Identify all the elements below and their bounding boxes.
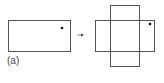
left-rectangle bbox=[9, 21, 71, 52]
diagram-canvas bbox=[0, 0, 164, 83]
arrow-icon bbox=[77, 34, 84, 37]
figure-label: (a) bbox=[7, 55, 19, 66]
cross-horizontal-rectangle bbox=[96, 21, 155, 52]
cross-dot bbox=[149, 23, 152, 26]
cross-vertical-rectangle bbox=[111, 6, 140, 67]
left-rectangle-dot bbox=[61, 27, 64, 30]
